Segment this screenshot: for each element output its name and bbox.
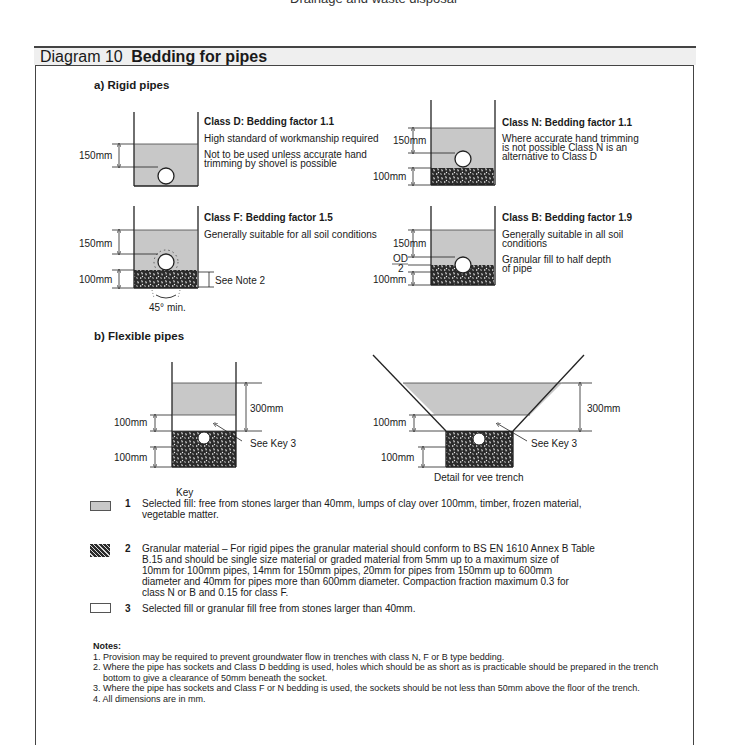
svg-text:100mm: 100mm bbox=[373, 274, 406, 285]
svg-text:conditions: conditions bbox=[502, 238, 547, 249]
svg-text:alternative to Class D: alternative to Class D bbox=[502, 151, 597, 162]
flexible-standard-diagram: 300mm 100mm 100mm See Key 3 bbox=[114, 362, 297, 467]
class-d-dim-150: 150mm bbox=[79, 150, 112, 161]
class-b-diagram: 150mm OD 2 100mm bbox=[373, 206, 495, 285]
class-n-diagram: 150mm 100mm bbox=[373, 100, 495, 185]
note-2: 2. Where the pipe has sockets and Class … bbox=[93, 662, 683, 683]
svg-text:150mm: 150mm bbox=[393, 135, 426, 146]
vee-see-key-3: See Key 3 bbox=[531, 438, 578, 449]
vee-trench-diagram: 300mm 100mm 100mm See Key 3 Detail for v… bbox=[373, 355, 620, 483]
key-title: Key bbox=[176, 487, 193, 498]
svg-text:300mm: 300mm bbox=[587, 403, 620, 414]
note-4: 4. All dimensions are in mm. bbox=[93, 694, 683, 705]
svg-text:of pipe: of pipe bbox=[502, 263, 532, 274]
granular-fill-swatch bbox=[90, 603, 111, 613]
svg-text:100mm: 100mm bbox=[79, 274, 112, 285]
vee-caption: Detail for vee trench bbox=[434, 472, 524, 483]
class-f-heading: Class F: Bedding factor 1.5 bbox=[204, 212, 333, 223]
class-n-heading: Class N: Bedding factor 1.1 bbox=[502, 117, 632, 128]
class-f-note-ref: See Note 2 bbox=[215, 275, 265, 286]
svg-text:150mm: 150mm bbox=[393, 238, 426, 249]
class-d-diagram: 150mm bbox=[79, 112, 198, 186]
svg-text:100mm: 100mm bbox=[373, 171, 406, 182]
svg-text:Generally suitable for all soi: Generally suitable for all soil conditio… bbox=[204, 229, 377, 240]
svg-text:High standard of workmanship r: High standard of workmanship required bbox=[204, 133, 379, 144]
granular-material-swatch bbox=[90, 544, 110, 557]
svg-text:100mm: 100mm bbox=[114, 417, 147, 428]
notes: Notes: 1. Provision may be required to p… bbox=[93, 641, 683, 704]
svg-text:100mm: 100mm bbox=[114, 452, 147, 463]
svg-text:150mm: 150mm bbox=[79, 238, 112, 249]
selected-fill-swatch bbox=[90, 501, 111, 511]
svg-text:2: 2 bbox=[398, 263, 404, 274]
note-1: 1. Provision may be required to prevent … bbox=[93, 652, 683, 663]
svg-text:100mm: 100mm bbox=[381, 452, 414, 463]
class-f-angle: 45° min. bbox=[149, 302, 186, 313]
svg-text:300mm: 300mm bbox=[250, 403, 283, 414]
note-3: 3. Where the pipe has sockets and Class … bbox=[93, 683, 683, 694]
svg-text:100mm: 100mm bbox=[373, 417, 406, 428]
class-d-heading: Class D: Bedding factor 1.1 bbox=[204, 116, 334, 127]
notes-title: Notes: bbox=[93, 641, 683, 652]
flex-see-key-3: See Key 3 bbox=[250, 438, 297, 449]
class-b-heading: Class B: Bedding factor 1.9 bbox=[502, 212, 632, 223]
svg-text:trimming by shovel is possible: trimming by shovel is possible bbox=[204, 158, 337, 169]
